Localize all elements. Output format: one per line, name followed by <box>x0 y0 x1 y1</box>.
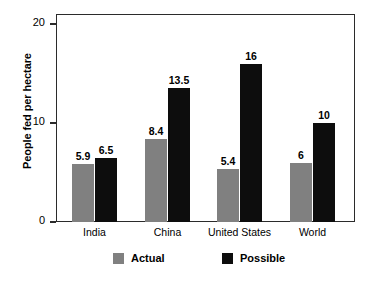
bar-possible[interactable]: 16 <box>240 64 262 222</box>
chart-legend: Actual Possible <box>0 252 366 274</box>
y-axis-tick-label: 10 <box>33 115 45 127</box>
y-axis-tick-label: 20 <box>33 16 45 28</box>
bar-value-label: 6 <box>298 149 304 161</box>
bar-actual[interactable]: 5.9 <box>72 164 94 222</box>
bar-actual[interactable]: 6 <box>290 163 312 222</box>
x-axis-label-united-states: United States <box>208 226 271 238</box>
legend-label-possible: Possible <box>240 252 285 264</box>
legend-item-possible[interactable]: Possible <box>222 252 285 264</box>
bar-actual[interactable]: 8.4 <box>145 139 167 222</box>
bar-value-label: 8.4 <box>149 125 164 137</box>
y-axis-title: People fed per hectare <box>21 26 33 196</box>
bar-possible[interactable]: 10 <box>313 123 335 222</box>
plot-area: 5.96.58.413.55.416610 <box>56 14 355 222</box>
bar-chart: People fed per hectare 20100 5.96.58.413… <box>0 0 366 284</box>
bar-group: 5.416 <box>217 14 262 222</box>
x-axis-label-india: India <box>83 226 106 238</box>
legend-swatch-possible-icon <box>222 253 233 264</box>
bar-value-label: 5.4 <box>221 155 236 167</box>
x-axis-label-world: World <box>299 226 326 238</box>
bar-possible[interactable]: 6.5 <box>95 158 117 222</box>
legend-item-actual[interactable]: Actual <box>113 252 165 264</box>
bar-value-label: 6.5 <box>99 144 114 156</box>
bar-group: 610 <box>290 14 335 222</box>
legend-swatch-actual-icon <box>113 253 124 264</box>
x-axis-label-china: China <box>154 226 181 238</box>
bar-possible[interactable]: 13.5 <box>168 88 190 222</box>
bar-value-label: 5.9 <box>76 150 91 162</box>
bar-group: 5.96.5 <box>72 14 117 222</box>
bar-actual[interactable]: 5.4 <box>217 169 239 222</box>
y-axis-tick-label: 0 <box>39 214 45 226</box>
bar-value-label: 16 <box>245 50 257 62</box>
bar-value-label: 10 <box>318 109 330 121</box>
bar-value-label: 13.5 <box>169 74 189 86</box>
bar-group: 8.413.5 <box>145 14 190 222</box>
legend-label-actual: Actual <box>131 252 165 264</box>
